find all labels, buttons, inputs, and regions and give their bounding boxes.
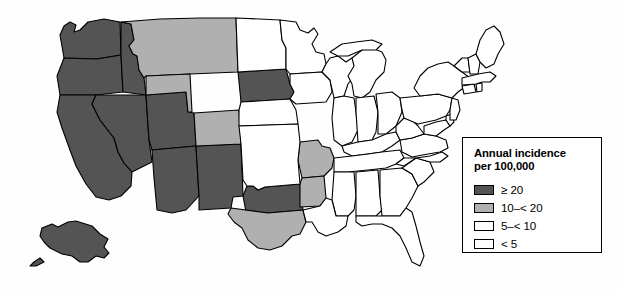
legend-label-ge-20: ≥ 20 xyxy=(501,183,523,196)
state-SD[interactable] xyxy=(238,69,294,102)
state-AK[interactable] xyxy=(40,221,109,262)
state-OK[interactable] xyxy=(243,184,303,213)
state-RI[interactable] xyxy=(476,83,482,92)
state-KS[interactable] xyxy=(239,124,300,190)
state-PA[interactable] xyxy=(400,94,452,124)
legend-item-lt-5[interactable]: < 5 xyxy=(474,235,601,253)
legend-swatch-medium-gray xyxy=(474,203,494,213)
legend-label-lt-5: < 5 xyxy=(501,237,517,250)
legend-title-line1: Annual incidence xyxy=(474,147,601,160)
legend-item-5-to-10[interactable]: 5–< 10 xyxy=(474,217,601,235)
state-NM[interactable] xyxy=(196,144,243,210)
state-WA[interactable] xyxy=(60,19,121,59)
legend-swatch-dark-gray xyxy=(474,185,494,195)
state-IL[interactable] xyxy=(332,96,358,146)
state-NJ[interactable] xyxy=(450,98,460,120)
legend-label-5-to-10: 5–< 10 xyxy=(501,219,536,232)
state-MA[interactable] xyxy=(462,72,496,85)
legend-item-10-to-20[interactable]: 10–< 20 xyxy=(474,199,601,217)
state-ME[interactable] xyxy=(476,26,504,68)
state-MD[interactable] xyxy=(424,120,450,136)
legend: Annual incidence per 100,000 ≥ 20 10–< 2… xyxy=(462,137,602,253)
legend-item-ge-20[interactable]: ≥ 20 xyxy=(474,181,601,199)
state-IN[interactable] xyxy=(356,96,378,142)
legend-swatch-white-5-10 xyxy=(474,221,494,231)
state-MS[interactable] xyxy=(332,172,356,216)
legend-label-10-to-20: 10–< 20 xyxy=(501,201,543,214)
legend-title-line2: per 100,000 xyxy=(474,160,601,173)
state-MN[interactable] xyxy=(280,20,326,74)
state-AZ[interactable] xyxy=(152,146,199,213)
state-TX[interactable] xyxy=(228,208,306,250)
legend-items: ≥ 20 10–< 20 5–< 10 < 5 xyxy=(474,181,601,253)
legend-swatch-white-lt-5 xyxy=(474,239,494,249)
state-NE[interactable] xyxy=(239,99,298,126)
state-MI[interactable] xyxy=(348,48,386,98)
alaska-tail xyxy=(30,258,44,266)
map-figure: Annual incidence per 100,000 ≥ 20 10–< 2… xyxy=(0,0,620,291)
state-MO[interactable] xyxy=(298,140,334,178)
state-FL[interactable] xyxy=(356,208,424,266)
state-OR[interactable] xyxy=(57,55,123,95)
state-AL[interactable] xyxy=(356,170,382,216)
state-CT[interactable] xyxy=(462,84,476,94)
state-CO[interactable] xyxy=(194,110,241,146)
state-IA[interactable] xyxy=(290,72,332,104)
state-MT[interactable] xyxy=(121,18,238,78)
state-ND[interactable] xyxy=(236,18,286,72)
